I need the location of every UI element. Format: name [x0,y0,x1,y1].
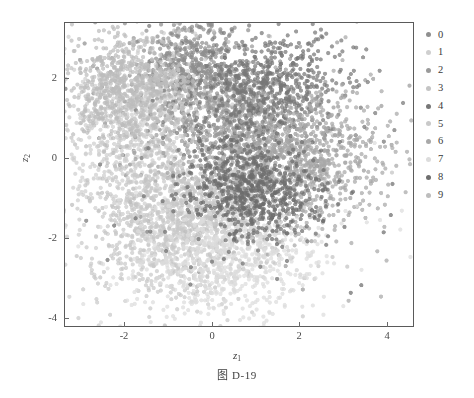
scatter-plot-area [64,22,414,327]
x-axis-label: z1 [0,349,474,363]
x-tick-label-1: 0 [199,331,225,342]
x-tick-mark-2 [299,322,300,327]
y-tick-mark--4 [64,318,69,319]
legend-item-label: 2 [438,65,443,76]
legend: 0123456789 [426,26,470,204]
y-tick-mark-2 [64,78,69,79]
legend-item-5[interactable]: 5 [426,115,470,133]
y-tick-mark--2 [64,238,69,239]
legend-item-8[interactable]: 8 [426,168,470,186]
figure-d-19: 2 0 -2 -4 -2 0 2 4 z1 z2 0123456789 图 D-… [0,0,474,398]
legend-marker-icon [426,104,431,109]
x-axis-label-subscript: 1 [237,354,241,363]
legend-item-label: 6 [438,136,443,147]
legend-marker-icon [426,175,431,180]
y-tick-label-3: -4 [31,313,57,324]
y-axis-label-main: z [18,158,30,162]
x-tick-mark-4 [387,322,388,327]
y-tick-mark-0 [64,158,69,159]
figure-caption: 图 D-19 [0,366,474,382]
x-tick-mark-0 [212,322,213,327]
x-tick-mark--2 [124,322,125,327]
y-axis-label-subscript: 2 [23,154,32,158]
legend-item-9[interactable]: 9 [426,186,470,204]
legend-marker-icon [426,193,431,198]
x-tick-label-3: 4 [374,331,400,342]
y-tick-label-2: -2 [31,233,57,244]
legend-marker-icon [426,139,431,144]
legend-item-label: 1 [438,47,443,58]
legend-item-7[interactable]: 7 [426,151,470,169]
legend-item-label: 0 [438,30,443,41]
legend-item-2[interactable]: 2 [426,62,470,80]
legend-marker-icon [426,157,431,162]
legend-item-label: 4 [438,101,443,112]
legend-marker-icon [426,50,431,55]
x-tick-label-0: -2 [111,331,137,342]
legend-item-label: 7 [438,154,443,165]
legend-marker-icon [426,32,431,37]
legend-item-label: 8 [438,172,443,183]
legend-item-6[interactable]: 6 [426,133,470,151]
legend-item-3[interactable]: 3 [426,79,470,97]
y-axis-label: z2 [18,154,32,162]
y-tick-label-1: 0 [31,153,57,164]
legend-item-4[interactable]: 4 [426,97,470,115]
x-tick-label-2: 2 [286,331,312,342]
legend-item-label: 5 [438,119,443,130]
legend-item-0[interactable]: 0 [426,26,470,44]
legend-marker-icon [426,121,431,126]
legend-marker-icon [426,86,431,91]
legend-item-label: 3 [438,83,443,94]
y-tick-label-0: 2 [31,73,57,84]
legend-item-1[interactable]: 1 [426,44,470,62]
scatter-points-canvas [65,23,413,326]
legend-marker-icon [426,68,431,73]
legend-item-label: 9 [438,190,443,201]
